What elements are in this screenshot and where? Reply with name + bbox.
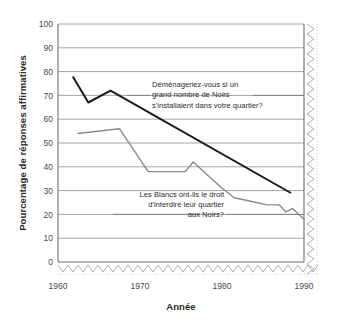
- y-tick-80: 80: [44, 67, 54, 77]
- torn-edge-right-zigzag: [307, 24, 314, 274]
- y-tick-20: 20: [44, 210, 54, 220]
- torn-edge-bottom-zigzag: [58, 265, 318, 272]
- y-tick-70: 70: [44, 91, 54, 101]
- y-tick-50: 50: [44, 138, 54, 148]
- x-tick-1970: 1970: [131, 281, 150, 291]
- annotation-right-to-bar-line2: d'interdire leur quartier: [148, 200, 224, 209]
- chart-svg: 100 90 80 70 60 50 40 30 20 10 0 1960 19…: [0, 0, 337, 333]
- torn-edge-bottom: [58, 265, 318, 274]
- annotation-move-away: Déménageriez-vous si un grand nombre de …: [152, 80, 263, 110]
- chart-container: 100 90 80 70 60 50 40 30 20 10 0 1960 19…: [0, 0, 337, 333]
- y-tick-labels: 100 90 80 70 60 50 40 30 20 10 0: [39, 19, 53, 267]
- y-tick-100: 100: [39, 19, 53, 29]
- y-tick-90: 90: [44, 43, 54, 53]
- x-axis-title: Année: [166, 301, 196, 312]
- y-axis-title: Pourcentage de réponses affirmatives: [17, 55, 28, 231]
- annotation-move-away-line1: Déménageriez-vous si un: [152, 80, 238, 89]
- y-tick-60: 60: [44, 114, 54, 124]
- torn-edge-right: [307, 24, 317, 274]
- annotation-right-to-bar-line1: Les Blancs ont-ils le droit: [140, 190, 225, 199]
- x-tick-1980: 1980: [213, 281, 232, 291]
- y-tick-0: 0: [48, 257, 53, 267]
- y-tick-40: 40: [44, 162, 54, 172]
- annotation-move-away-line3: s'installaient dans votre quartier?: [152, 101, 263, 110]
- x-tick-1990: 1990: [295, 281, 314, 291]
- annotation-move-away-line2: grand nombre de Noirs: [152, 90, 230, 99]
- y-tick-30: 30: [44, 186, 54, 196]
- annotation-right-to-bar-line3: aux Noirs?: [188, 210, 224, 219]
- x-tick-labels: 1960 1970 1980 1990: [49, 281, 314, 291]
- y-tick-10: 10: [44, 233, 54, 243]
- x-tick-1960: 1960: [49, 281, 68, 291]
